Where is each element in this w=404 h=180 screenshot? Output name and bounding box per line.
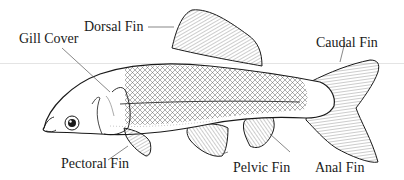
anal-leader — [270, 134, 290, 152]
label-gill-cover: Gill Cover — [19, 32, 79, 46]
dorsal-fin — [172, 10, 262, 66]
label-pelvic-fin: Pelvic Fin — [233, 161, 290, 175]
label-anal-fin: Anal Fin — [315, 161, 364, 175]
label-pectoral-fin: Pectoral Fin — [61, 157, 129, 171]
label-caudal-fin: Caudal Fin — [316, 36, 378, 50]
pelvic-fin — [187, 124, 228, 156]
fish-body — [43, 64, 334, 134]
fish-diagram: Dorsal Fin Gill Cover Caudal Fin Pectora… — [0, 0, 404, 180]
label-dorsal-fin: Dorsal Fin — [84, 20, 144, 34]
fish-illustration — [0, 0, 404, 180]
